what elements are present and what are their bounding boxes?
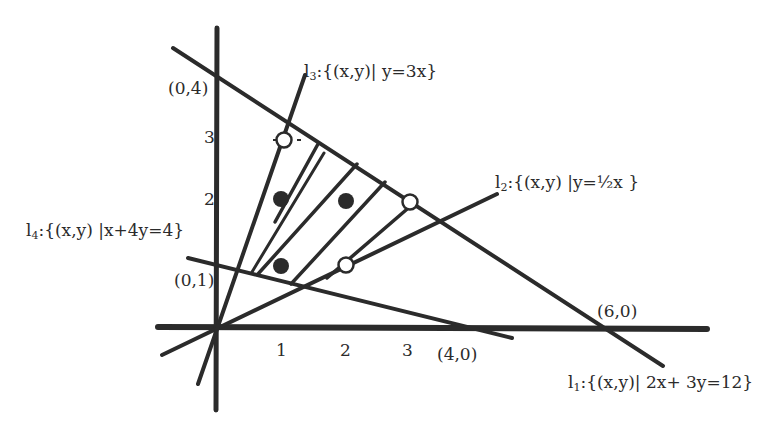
x-tick-1: 1	[276, 342, 287, 359]
filled-point-1-1	[273, 258, 289, 274]
filled-point-1-2	[273, 191, 289, 207]
x-tick-3: 3	[402, 342, 413, 359]
y-tick-2: 2	[204, 191, 215, 208]
line-l3-set: :{(x,y)| y=3x}	[316, 61, 437, 81]
label-point-4-0: (4,0)	[437, 346, 477, 363]
filled-point-2-2	[338, 193, 354, 209]
x-tick-2: 2	[340, 342, 351, 359]
open-point-1-3	[277, 133, 292, 148]
line-l2-set: :{(x,y) |y=½x }	[507, 172, 639, 192]
line-l1	[173, 48, 663, 366]
line-l4-set: :{(x,y) |x+4y=4}	[38, 220, 184, 240]
open-point-3-2	[403, 195, 418, 210]
line-label-l1: l1:{(x,y)| 2x+ 3y=12}	[568, 374, 753, 393]
line-label-l3: l3:{(x,y)| y=3x}	[304, 63, 437, 82]
label-point-0-4: (0,4)	[168, 80, 208, 97]
y-tick-3: 3	[204, 129, 215, 146]
line-label-l4: l4:{(x,y) |x+4y=4}	[26, 222, 184, 241]
x-axis	[158, 327, 707, 329]
open-point-2-1	[339, 258, 354, 273]
line-label-l2: l2:{(x,y) |y=½x }	[495, 174, 639, 193]
label-point-6-0: (6,0)	[597, 303, 637, 320]
hatch-line	[275, 144, 318, 222]
y-axis	[216, 28, 217, 410]
label-point-0-1: (0,1)	[174, 272, 214, 289]
line-l1-set: :{(x,y)| 2x+ 3y=12}	[580, 372, 753, 392]
